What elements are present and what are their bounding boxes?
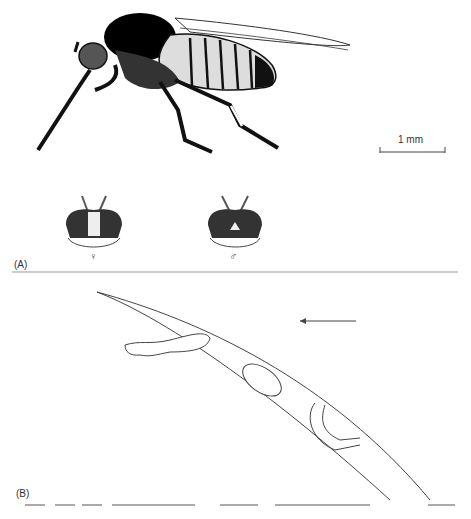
male-symbol: ♂	[229, 250, 237, 262]
male-head-drawing	[208, 196, 262, 247]
female-head-drawing	[66, 196, 122, 247]
larva-1	[125, 334, 210, 356]
scale-bar	[380, 147, 445, 153]
panel-b-label: (B)	[16, 488, 29, 499]
larva-3	[310, 403, 360, 450]
scale-bar-label: 1 mm	[398, 134, 423, 145]
direction-arrow	[300, 318, 356, 324]
female-symbol: ♀	[89, 250, 97, 262]
panel-a-label: (A)	[14, 259, 27, 270]
adult-insect-drawing	[38, 13, 350, 152]
stalk-drawing	[97, 292, 430, 500]
